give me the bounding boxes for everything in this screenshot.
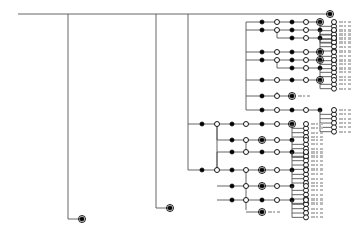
node-open[interactable]	[304, 20, 309, 25]
node-open[interactable]	[304, 184, 309, 189]
node-filled[interactable]	[200, 122, 204, 126]
node-filled[interactable]	[230, 150, 234, 154]
node-dot	[200, 168, 204, 172]
node-open[interactable]	[275, 150, 280, 155]
taxon-label-dashes	[298, 95, 311, 99]
node-dot	[332, 36, 337, 41]
node-open[interactable]	[244, 122, 249, 127]
node-dot	[304, 58, 309, 63]
node-open[interactable]	[304, 28, 309, 33]
node-open[interactable]	[275, 58, 280, 63]
node-open[interactable]	[275, 184, 280, 189]
node-dot	[290, 108, 294, 112]
node-open[interactable]	[304, 36, 309, 41]
node-open[interactable]	[244, 198, 249, 203]
node-filled[interactable]	[230, 198, 234, 202]
node-filled[interactable]	[290, 28, 294, 32]
node-open[interactable]	[215, 168, 220, 173]
node-filled[interactable]	[260, 198, 264, 202]
node-open[interactable]	[304, 215, 309, 220]
node-dot	[304, 198, 309, 203]
node-dot	[260, 94, 264, 98]
node-dot	[332, 86, 337, 91]
node-open[interactable]	[332, 28, 337, 33]
taxon-label-dashes	[311, 169, 324, 173]
node-filled[interactable]	[260, 94, 264, 98]
node-open[interactable]	[304, 150, 309, 155]
node-open[interactable]	[332, 129, 337, 134]
node-dot	[304, 138, 309, 143]
node-filled[interactable]	[290, 66, 294, 70]
node-dot	[275, 168, 280, 173]
node-open[interactable]	[244, 150, 249, 155]
node-filled[interactable]	[260, 122, 264, 126]
node-open[interactable]	[244, 184, 249, 189]
taxon-label-dashes	[311, 139, 324, 143]
node-open[interactable]	[304, 138, 309, 143]
node-filled[interactable]	[290, 20, 294, 24]
node-filled[interactable]	[290, 78, 294, 82]
node-open[interactable]	[275, 28, 280, 33]
node-dot	[215, 168, 220, 173]
node-filled[interactable]	[260, 50, 264, 54]
node-open[interactable]	[332, 50, 337, 55]
node-dot	[260, 78, 264, 82]
node-dot	[230, 122, 234, 126]
node-filled[interactable]	[260, 58, 264, 62]
node-filled[interactable]	[260, 150, 264, 154]
node-open[interactable]	[304, 168, 309, 173]
node-dot	[260, 108, 264, 112]
node-dot	[230, 198, 234, 202]
node-open[interactable]	[304, 58, 309, 63]
node-dot	[260, 168, 264, 172]
node-filled[interactable]	[260, 20, 264, 24]
node-open[interactable]	[304, 50, 309, 55]
node-open[interactable]	[275, 138, 280, 143]
node-open[interactable]	[332, 36, 337, 41]
node-open[interactable]	[332, 66, 337, 71]
node-open[interactable]	[304, 78, 309, 83]
node-open[interactable]	[275, 168, 280, 173]
node-dot	[260, 210, 264, 214]
node-filled[interactable]	[230, 184, 234, 188]
node-filled[interactable]	[260, 108, 264, 112]
node-open[interactable]	[275, 122, 280, 127]
node-open[interactable]	[244, 138, 249, 143]
node-filled[interactable]	[260, 28, 264, 32]
node-filled[interactable]	[290, 36, 294, 40]
node-filled[interactable]	[230, 168, 234, 172]
node-open[interactable]	[275, 108, 280, 113]
node-open[interactable]	[304, 108, 309, 113]
node-dot	[304, 150, 309, 155]
node-open[interactable]	[332, 108, 337, 113]
node-filled[interactable]	[260, 78, 264, 82]
node-open[interactable]	[332, 20, 337, 25]
node-open[interactable]	[332, 78, 337, 83]
node-filled[interactable]	[290, 58, 294, 62]
node-dot	[275, 28, 280, 33]
node-dot	[332, 108, 337, 113]
node-dot	[290, 28, 294, 32]
node-open[interactable]	[304, 66, 309, 71]
node-open[interactable]	[215, 122, 220, 127]
node-open[interactable]	[275, 20, 280, 25]
node-filled[interactable]	[230, 122, 234, 126]
node-filled[interactable]	[290, 50, 294, 54]
node-open[interactable]	[275, 198, 280, 203]
node-open[interactable]	[275, 50, 280, 55]
taxon-label-dashes	[339, 79, 352, 83]
node-open[interactable]	[332, 86, 337, 91]
node-open[interactable]	[275, 94, 280, 99]
node-dot	[275, 138, 280, 143]
node-open[interactable]	[304, 198, 309, 203]
node-filled[interactable]	[230, 138, 234, 142]
node-filled[interactable]	[290, 108, 294, 112]
node-dot	[304, 20, 309, 25]
taxon-label-dashes	[311, 185, 324, 189]
node-open[interactable]	[304, 122, 309, 127]
node-filled[interactable]	[200, 168, 204, 172]
node-open[interactable]	[332, 58, 337, 63]
node-dot	[260, 150, 264, 154]
node-open[interactable]	[275, 78, 280, 83]
node-open[interactable]	[244, 168, 249, 173]
